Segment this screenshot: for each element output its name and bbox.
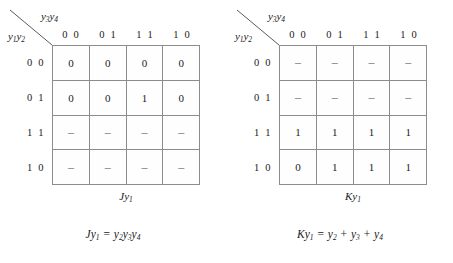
- kmap-cell: –: [354, 46, 391, 81]
- equation-lhs-subscript: 1: [96, 233, 100, 242]
- kmap-cell: 0: [280, 150, 317, 185]
- equation-term: y4: [132, 228, 141, 240]
- term-subscript: 2: [333, 233, 337, 242]
- kmap-caption: Jy1: [52, 190, 200, 204]
- kmap-cell: –: [53, 150, 90, 185]
- kmap-grid: – – – – – – – – 1 1 1 1 0 1 1 1: [279, 45, 427, 185]
- row-header-3: 1 0: [8, 150, 50, 185]
- equation-equals: =: [102, 228, 111, 240]
- caption-subscript: 1: [357, 195, 361, 204]
- column-header-3: 1 0: [163, 26, 200, 44]
- column-header-2: 1 1: [353, 26, 390, 44]
- term-subscript: 4: [379, 233, 383, 242]
- row-header-0: 0 0: [235, 45, 277, 80]
- equation-term: y2: [328, 228, 337, 240]
- kmap-cell: 1: [317, 150, 354, 185]
- kmap-cell: –: [390, 46, 427, 81]
- kmap-figure-jy1: y3y4 y1y2 0 0 0 1 1 1 1 0 0 0 0 1 1 1 1 …: [0, 0, 226, 263]
- kmap-cell: –: [127, 150, 164, 185]
- column-header-row: 0 0 0 1 1 1 1 0: [279, 26, 427, 44]
- term-subscript: 3: [356, 233, 360, 242]
- equation-term: y3: [123, 228, 132, 240]
- kmap-cell: –: [390, 81, 427, 116]
- equation-equals: =: [316, 228, 325, 240]
- row-header-3: 1 0: [235, 150, 277, 185]
- kmap-cell: –: [354, 81, 391, 116]
- row-variable-label: y1y2: [8, 30, 25, 44]
- column-variable-label: y3y4: [268, 10, 285, 24]
- kmap-cell: 1: [317, 116, 354, 151]
- kmap-cell: 0: [53, 81, 90, 116]
- kmap-cell: –: [280, 81, 317, 116]
- column-header-2: 1 1: [126, 26, 163, 44]
- kmap-cell: –: [90, 150, 127, 185]
- kmap-cell: 0: [53, 46, 90, 81]
- kmap-cell: 1: [280, 116, 317, 151]
- column-header-0: 0 0: [279, 26, 316, 44]
- column-header-1: 0 1: [316, 26, 353, 44]
- row-header-1: 0 1: [235, 80, 277, 115]
- column-variable-label: y3y4: [41, 10, 58, 24]
- kmap-cell: 0: [90, 46, 127, 81]
- equation-lhs-function: K: [297, 228, 305, 240]
- kmap-cell: –: [53, 116, 90, 151]
- kmap-cell: 0: [127, 46, 164, 81]
- kmap-cell: –: [317, 46, 354, 81]
- row-header-0: 0 0: [8, 45, 50, 80]
- equation-lhs-subscript: 1: [310, 233, 314, 242]
- row-variable-label: y1y2: [235, 30, 252, 44]
- caption-subscript: 1: [129, 195, 133, 204]
- kmap-cell: 0: [163, 81, 200, 116]
- kmap-cell: 0: [90, 81, 127, 116]
- row-header-2: 1 1: [235, 115, 277, 150]
- equation-operator: +: [340, 228, 349, 240]
- kmap-cell: 1: [354, 116, 391, 151]
- column-header-1: 0 1: [89, 26, 126, 44]
- row-header-column: 0 0 0 1 1 1 1 0: [235, 45, 277, 185]
- kmap-cell: –: [127, 116, 164, 151]
- kmap-cell: –: [90, 116, 127, 151]
- column-header-0: 0 0: [52, 26, 89, 44]
- kmap-cell: –: [280, 46, 317, 81]
- equation-term: y2: [114, 228, 123, 240]
- kmap-cell: 1: [390, 150, 427, 185]
- kmap-cell: –: [163, 150, 200, 185]
- kmap-figure-ky1: y3y4 y1y2 0 0 0 1 1 1 1 0 0 0 0 1 1 1 1 …: [227, 0, 453, 263]
- kmap-cell: 0: [163, 46, 200, 81]
- column-header-3: 1 0: [390, 26, 427, 44]
- kmap-equation: Ky1 = y2 + y3 + y4: [227, 228, 453, 242]
- row-header-column: 0 0 0 1 1 1 1 0: [8, 45, 50, 185]
- kmap-cell: –: [317, 81, 354, 116]
- column-header-row: 0 0 0 1 1 1 1 0: [52, 26, 200, 44]
- kmap-grid: 0 0 0 0 0 0 1 0 – – – – – – – –: [52, 45, 200, 185]
- kmap-cell: 1: [127, 81, 164, 116]
- term-subscript: 4: [137, 233, 141, 242]
- kmap-cell: –: [163, 116, 200, 151]
- row-header-2: 1 1: [8, 115, 50, 150]
- kmap-caption: Ky1: [279, 190, 427, 204]
- row-header-1: 0 1: [8, 80, 50, 115]
- kmap-equation: Jy1 = y2y3y4: [0, 228, 226, 242]
- kmap-cell: 1: [390, 116, 427, 151]
- kmap-cell: 1: [354, 150, 391, 185]
- equation-term: y4: [374, 228, 383, 240]
- equation-term: y3: [351, 228, 360, 240]
- equation-operator: +: [363, 228, 372, 240]
